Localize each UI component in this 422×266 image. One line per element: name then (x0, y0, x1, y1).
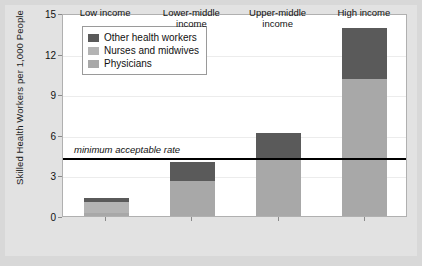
bar-segment[interactable] (342, 79, 387, 216)
y-axis-tick-label: 0 (32, 212, 56, 223)
x-axis-tick-label: Upper-middleincome (233, 7, 323, 29)
x-axis-tick-label-line: income (146, 18, 236, 29)
x-axis-tick-label: High income (319, 7, 409, 18)
legend-item[interactable]: Other health workers (88, 31, 199, 44)
bar-segment[interactable] (256, 158, 301, 216)
y-axis-tick-label: 6 (32, 130, 56, 141)
legend-swatch-icon (88, 34, 99, 42)
legend-item[interactable]: Nurses and midwives (88, 44, 199, 57)
x-axis-tick-label: Lower-middleincome (146, 7, 236, 29)
bar-segment[interactable] (84, 198, 129, 203)
bar-segment[interactable] (84, 213, 129, 216)
bar-segment[interactable] (84, 202, 129, 212)
x-axis-tick-label-line: Low income (60, 7, 150, 18)
x-axis-tick-label: Low income (60, 7, 150, 18)
x-axis-tick-label-line: income (233, 18, 323, 29)
bar-segment[interactable] (170, 162, 215, 181)
bar-segment[interactable] (170, 181, 215, 216)
y-axis-title: Skilled Health Workers per 1,000 People (14, 0, 25, 203)
bar-segment[interactable] (342, 28, 387, 79)
legend-swatch-icon (88, 60, 99, 68)
legend-item-label: Other health workers (104, 32, 197, 43)
bar-segment[interactable] (256, 133, 301, 157)
legend-swatch-icon (88, 47, 99, 55)
x-axis-tick-mark (105, 217, 106, 221)
legend-item-label: Nurses and midwives (104, 45, 199, 56)
chart-figure: Skilled Health Workers per 1,000 People … (0, 0, 422, 266)
x-axis-tick-mark (364, 217, 365, 221)
chart-legend: Other health workersNurses and midwivesP… (82, 26, 207, 75)
minimum-acceptable-rate-line (63, 158, 406, 160)
x-axis-tick-mark (191, 217, 192, 221)
minimum-acceptable-rate-label: minimum acceptable rate (74, 144, 180, 155)
y-axis-tick-label: 15 (32, 9, 56, 20)
legend-item[interactable]: Physicians (88, 57, 199, 70)
x-axis-tick-mark (278, 217, 279, 221)
bar-3[interactable] (256, 13, 301, 216)
y-axis-tick-label: 9 (32, 90, 56, 101)
y-axis-tick-label: 12 (32, 49, 56, 60)
x-axis-tick-label-line: Upper-middle (233, 7, 323, 18)
bar-4[interactable] (342, 13, 387, 216)
legend-item-label: Physicians (104, 58, 152, 69)
x-axis-tick-label-line: Lower-middle (146, 7, 236, 18)
plot-area: minimum acceptable rate Other health wor… (62, 14, 407, 217)
x-axis-tick-label-line: High income (319, 7, 409, 18)
y-axis-tick-label: 3 (32, 171, 56, 182)
y-axis-tick-mark (58, 217, 62, 218)
